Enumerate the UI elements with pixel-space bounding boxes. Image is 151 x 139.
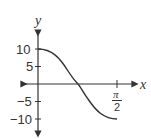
x-tick-label-denominator: 2	[114, 101, 120, 113]
x-axis-label: x	[139, 77, 147, 92]
x-tick-label-numerator: π	[113, 88, 119, 100]
y-tick-label-neg10: −10	[10, 112, 32, 127]
y-tick-label-neg5: −5	[17, 94, 32, 109]
y-tick-label-10: 10	[16, 42, 30, 57]
chart-figure: y x 10 5 −5 −10 π 2	[0, 0, 151, 139]
y-tick-label-5: 5	[26, 59, 33, 74]
y-axis-label: y	[33, 13, 42, 28]
